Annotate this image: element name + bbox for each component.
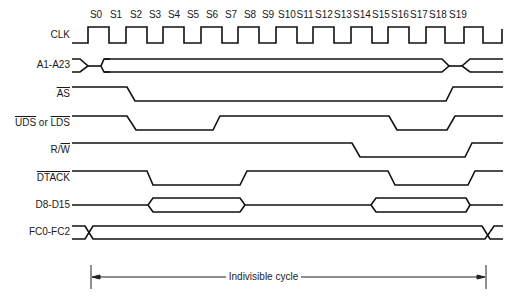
waveform-uds-lds — [72, 116, 503, 130]
waveform-dtack — [72, 171, 503, 185]
waveform-rw — [72, 143, 503, 157]
indivisible-cycle-caption: Indivisible cycle — [0, 271, 527, 282]
waveform-data — [72, 198, 503, 212]
waveform-clk — [72, 27, 502, 43]
waveform-fc — [72, 226, 503, 239]
waveforms — [0, 0, 527, 303]
waveform-address — [72, 59, 503, 72]
caption-text: Indivisible cycle — [226, 271, 301, 282]
waveform-as — [72, 87, 503, 101]
